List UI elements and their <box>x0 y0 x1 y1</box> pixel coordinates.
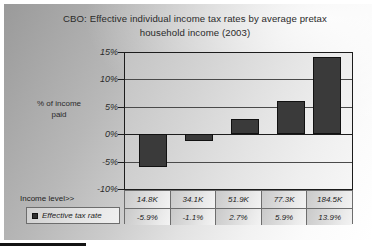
table-cell-rate-2: 2.7% <box>216 209 262 225</box>
table-cell-income-2: 51.9K <box>216 191 262 208</box>
table-cell-income-3: 77.3K <box>262 191 308 208</box>
y-tick-label-15: 15% <box>82 47 118 57</box>
chart-title: CBO: Effective individual income tax rat… <box>50 12 340 39</box>
legend-swatch-icon <box>32 213 38 219</box>
table-row-income: 14.8K 34.1K 51.9K 77.3K 184.5K <box>125 191 352 208</box>
y-tick-label-10: 10% <box>82 74 118 84</box>
chart-title-line-1: CBO: Effective individual income tax rat… <box>50 12 340 26</box>
table-cell-income-4: 184.5K <box>307 191 352 208</box>
table-cell-income-0: 14.8K <box>125 191 171 208</box>
plot-area <box>124 52 353 190</box>
y-tick-label-neg5: -5% <box>82 157 118 167</box>
scan-artifact-bar <box>0 243 86 246</box>
income-level-label: Income level>> <box>20 190 120 207</box>
legend-label: Effective tax rate <box>42 211 102 220</box>
table-cell-rate-1: -1.1% <box>171 209 217 225</box>
bar-51.9K <box>231 119 259 134</box>
bar-184.5K <box>313 57 341 134</box>
table-cell-rate-3: 5.9% <box>262 209 308 225</box>
legend-effective-tax-rate: Effective tax rate <box>26 207 120 224</box>
chart-title-line-2: household income (2003) <box>50 26 340 40</box>
table-row-rate: -5.9% -1.1% 2.7% 5.9% 13.9% <box>125 208 352 225</box>
y-tick-label-5: 5% <box>82 102 118 112</box>
bar-34.1K <box>185 134 213 141</box>
table-cell-rate-4: 13.9% <box>307 209 352 225</box>
bar-77.3K <box>277 101 305 134</box>
data-table: 14.8K 34.1K 51.9K 77.3K 184.5K -5.9% -1.… <box>124 190 353 224</box>
chart-screenshot: CBO: Effective individual income tax rat… <box>0 0 376 251</box>
table-cell-income-1: 34.1K <box>171 191 217 208</box>
bar-14.8K <box>139 134 167 167</box>
y-tick-label-0: 0% <box>82 129 118 139</box>
table-cell-rate-0: -5.9% <box>125 209 171 225</box>
